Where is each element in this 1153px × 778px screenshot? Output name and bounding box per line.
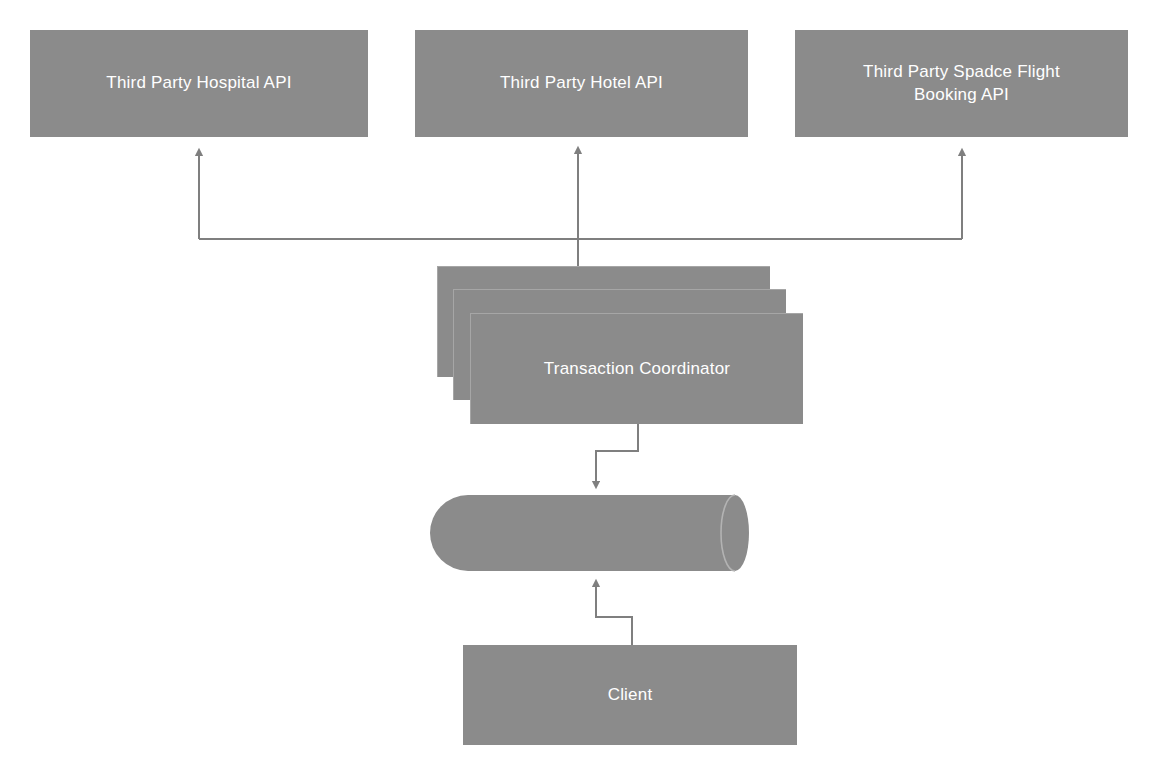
connector-coordinator-to-hospital-api bbox=[199, 152, 962, 239]
node-transaction-coordinator-label: Transaction Coordinator bbox=[544, 358, 730, 381]
node-flight-api-label: Third Party Spadce Flight Booking API bbox=[842, 61, 1082, 107]
connector-client-to-database bbox=[596, 583, 632, 645]
node-hotel-api[interactable]: Third Party Hotel API bbox=[415, 30, 748, 137]
node-hospital-api-label: Third Party Hospital API bbox=[106, 72, 291, 95]
node-database[interactable] bbox=[430, 495, 763, 571]
node-hotel-api-label: Third Party Hotel API bbox=[500, 72, 663, 95]
node-client[interactable]: Client bbox=[463, 645, 797, 745]
node-client-label: Client bbox=[608, 684, 653, 707]
diagram-canvas: Third Party Hospital API Third Party Hot… bbox=[0, 0, 1153, 778]
connector-coordinator-to-database bbox=[596, 424, 638, 485]
node-flight-api[interactable]: Third Party Spadce Flight Booking API bbox=[795, 30, 1128, 137]
coordinator-stack-layer-front[interactable]: Transaction Coordinator bbox=[470, 313, 803, 424]
node-hospital-api[interactable]: Third Party Hospital API bbox=[30, 30, 368, 137]
